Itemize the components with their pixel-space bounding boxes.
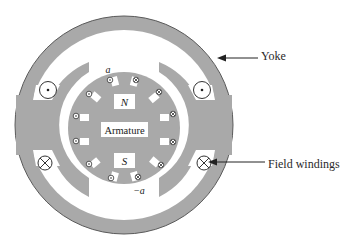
armature-label: Armature [104,125,145,136]
field-windings-label: Field windings [268,158,340,170]
field-windings-arrow [208,159,265,166]
yoke-arrow [217,55,258,62]
coil-a-label: a [106,64,111,75]
yoke-label: Yoke [261,50,286,62]
field-winding-dot-right [194,82,211,99]
coil-minus-a-label: −a [133,185,145,196]
south-pole-label: S [122,155,128,167]
field-winding-dot-left [40,82,57,99]
north-pole-label: N [120,96,129,108]
field-winding-cross-right [197,156,211,170]
field-winding-cross-left [38,156,52,170]
dc-machine-diagram: N Armature S a −a [0,0,347,251]
